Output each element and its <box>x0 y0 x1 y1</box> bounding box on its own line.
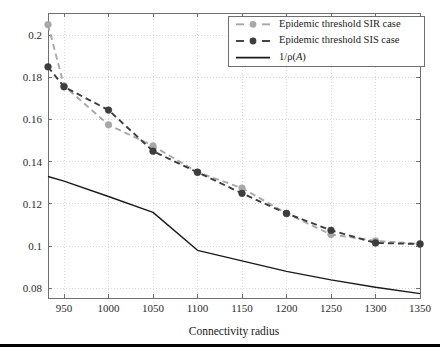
y-tick-label: 0.1 <box>28 240 42 252</box>
data-point-marker <box>372 240 379 247</box>
legend-label-3: 1/ρ(A) <box>279 51 306 63</box>
data-point-marker <box>105 121 112 128</box>
x-tick-label: 1250 <box>320 302 343 314</box>
chart-svg: 0.080.10.120.140.160.180.2 9501000105011… <box>0 0 440 358</box>
data-point-marker <box>417 241 424 248</box>
y-tick-label: 0.2 <box>28 29 42 41</box>
x-tick-label: 1100 <box>187 302 209 314</box>
x-tick-label: 1000 <box>98 302 121 314</box>
data-point-marker <box>283 210 290 217</box>
figure-container: 0.080.10.120.140.160.180.2 9501000105011… <box>0 0 440 358</box>
y-tick-label: 0.12 <box>23 198 42 210</box>
x-tick-label: 950 <box>56 302 73 314</box>
data-point-marker <box>105 107 112 114</box>
y-tick-label: 0.08 <box>23 282 43 294</box>
data-point-marker <box>61 83 68 90</box>
bottom-horizontal-rule <box>0 344 440 347</box>
x-tick-label: 1050 <box>142 302 165 314</box>
data-point-marker <box>328 227 335 234</box>
x-tick-label: 1200 <box>276 302 299 314</box>
x-axis-title: Connectivity radius <box>189 325 280 338</box>
data-point-marker <box>239 190 246 197</box>
chart-legend: Epidemic threshold SIR caseEpidemic thre… <box>228 16 424 66</box>
legend-marker <box>250 38 257 45</box>
x-tick-label: 1300 <box>365 302 388 314</box>
legend-label-2: Epidemic threshold SIS case <box>279 34 400 45</box>
y-axis-tick-labels: 0.080.10.120.140.160.180.2 <box>23 29 43 294</box>
legend-label-1: Epidemic threshold SIR case <box>279 18 401 29</box>
x-axis-tick-labels: 95010001050110011501200125013001350 <box>56 302 432 314</box>
x-tick-label: 1350 <box>409 302 432 314</box>
y-tick-label: 0.14 <box>23 156 43 168</box>
data-point-marker <box>45 21 52 28</box>
data-point-marker <box>150 148 157 155</box>
legend-marker <box>250 21 257 28</box>
x-tick-label: 1150 <box>231 302 253 314</box>
y-tick-label: 0.18 <box>23 71 43 83</box>
data-point-marker <box>194 169 201 176</box>
data-point-marker <box>45 63 52 70</box>
y-tick-label: 0.16 <box>23 113 43 125</box>
